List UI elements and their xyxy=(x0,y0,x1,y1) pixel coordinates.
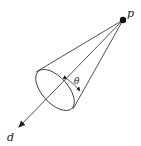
angle-label: θ xyxy=(74,76,80,86)
direction-axis-arrow xyxy=(19,20,123,127)
direction-label: d xyxy=(7,131,14,144)
apex-point xyxy=(120,17,126,23)
apex-label: p xyxy=(127,7,134,20)
cone-edge-lower xyxy=(73,20,123,109)
cone-diagram: p d θ xyxy=(0,0,141,146)
